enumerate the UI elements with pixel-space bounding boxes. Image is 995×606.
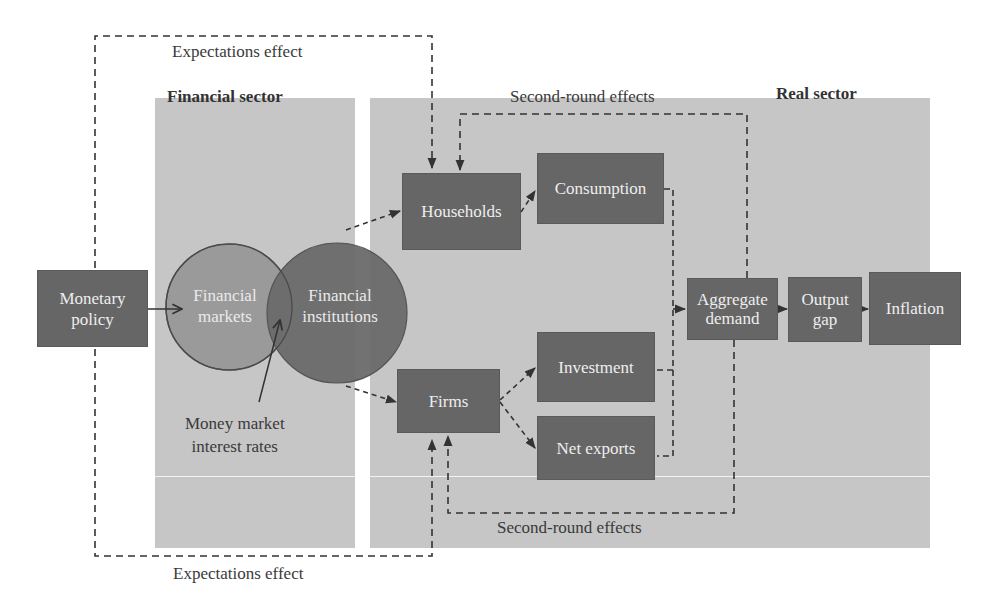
institutions-to-firms-arrow xyxy=(346,386,396,402)
financial-markets-label: Financial markets xyxy=(180,285,270,327)
firms-box: Firms xyxy=(397,369,500,433)
institutions-to-households-arrow xyxy=(346,211,400,230)
expectations-effect-label-top: Expectations effect xyxy=(172,42,302,62)
net-exports-box: Net exports xyxy=(537,416,655,480)
expectations-effect-label-bottom: Expectations effect xyxy=(173,564,303,584)
households-to-consumption-arrow xyxy=(521,191,535,212)
inflation-box: Inflation xyxy=(869,272,961,345)
money-market-interest-rates-label: Money market interest rates xyxy=(185,412,285,458)
aggregate-demand-box: Aggregate demand xyxy=(687,278,778,340)
firms-to-investment-arrow xyxy=(500,368,535,400)
financial-sector-title: Financial sector xyxy=(167,87,283,107)
second-round-effects-label-top: Second-round effects xyxy=(510,87,655,107)
consumption-box: Consumption xyxy=(537,153,664,224)
firms-to-net-exports-arrow xyxy=(500,402,535,448)
monetary-policy-box: Monetary policy xyxy=(37,270,148,347)
components-to-aggregate-demand xyxy=(657,189,685,456)
financial-institutions-label: Financial institutions xyxy=(288,285,392,327)
households-box: Households xyxy=(402,173,521,250)
investment-box: Investment xyxy=(537,332,655,402)
real-sector-title: Real sector xyxy=(776,84,857,104)
second-round-effects-label-bottom: Second-round effects xyxy=(497,518,642,538)
output-gap-box: Output gap xyxy=(788,277,862,342)
